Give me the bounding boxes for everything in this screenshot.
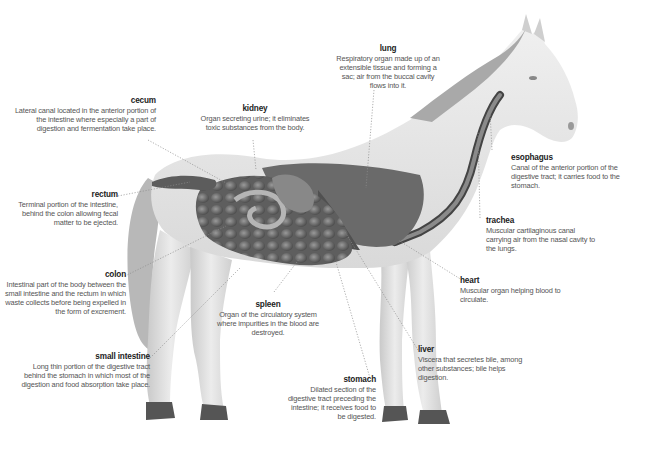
label-desc: Organ secreting urine; it eliminates tox… bbox=[201, 114, 310, 132]
label-desc: Terminal portion of the intestine, behin… bbox=[18, 200, 118, 227]
label-desc: Canal of the anterior portion of the dig… bbox=[511, 163, 620, 190]
label-kidney: kidney Organ secreting urine; it elimina… bbox=[196, 104, 314, 132]
label-title: trachea bbox=[486, 216, 596, 226]
label-title: lung bbox=[336, 44, 440, 54]
label-desc: Muscular cartilaginous canal carrying ai… bbox=[486, 226, 595, 253]
label-cecum: cecum Lateral canal located in the anter… bbox=[8, 96, 156, 133]
label-title: stomach bbox=[286, 375, 376, 385]
label-colon: colon Intestinal part of the body betwee… bbox=[4, 270, 126, 316]
label-desc: Organ of the circulatory system where im… bbox=[217, 310, 319, 337]
label-title: esophagus bbox=[511, 153, 623, 163]
label-title: cecum bbox=[8, 96, 156, 106]
label-title: small intestine bbox=[14, 352, 150, 362]
label-title: kidney bbox=[196, 104, 314, 114]
label-small-intestine: small intestine Long thin portion of the… bbox=[14, 352, 150, 389]
label-trachea: trachea Muscular cartilaginous canal car… bbox=[486, 216, 596, 253]
label-desc: Lateral canal located in the anterior po… bbox=[15, 106, 156, 133]
label-desc: Intestinal part of the body between the … bbox=[5, 280, 126, 316]
label-spleen: spleen Organ of the circulatory system w… bbox=[212, 300, 324, 337]
label-desc: Long thin portion of the digestive tract… bbox=[21, 362, 150, 389]
label-desc: Muscular organ helping blood to circulat… bbox=[460, 286, 561, 304]
label-desc: Respiratory organ made up of an extensib… bbox=[336, 54, 439, 90]
label-title: colon bbox=[4, 270, 126, 280]
label-title: heart bbox=[460, 276, 572, 286]
label-heart: heart Muscular organ helping blood to ci… bbox=[460, 276, 572, 304]
label-esophagus: esophagus Canal of the anterior portion … bbox=[511, 153, 623, 190]
label-rectum: rectum Terminal portion of the intestine… bbox=[6, 190, 118, 227]
horse-front-legs bbox=[380, 245, 450, 424]
label-title: spleen bbox=[212, 300, 324, 310]
label-lung: lung Respiratory organ made up of an ext… bbox=[336, 44, 440, 90]
label-stomach: stomach Dilated section of the digestive… bbox=[286, 375, 376, 421]
label-desc: Viscera that secretes bile, among other … bbox=[418, 355, 522, 382]
label-title: liver bbox=[418, 345, 528, 355]
label-desc: Dilated section of the digestive tract p… bbox=[288, 385, 376, 421]
label-title: rectum bbox=[6, 190, 118, 200]
label-liver: liver Viscera that secretes bile, among … bbox=[418, 345, 528, 382]
